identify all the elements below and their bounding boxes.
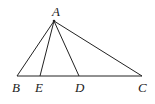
segment-ab [17,21,54,76]
label-d: D [74,80,85,95]
triangle-diagram: A B E D C [0,0,155,104]
label-e: E [34,80,43,95]
segment-ae [40,21,54,76]
label-c: C [138,80,147,95]
segment-ac [54,21,142,76]
label-b: B [12,80,20,95]
label-a: A [51,4,60,19]
point-a-dot [53,20,56,23]
